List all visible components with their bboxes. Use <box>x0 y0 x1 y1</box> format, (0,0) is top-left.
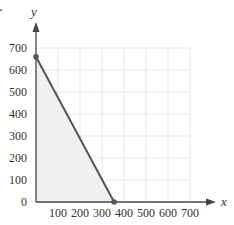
x-tick-label: 600 <box>159 206 177 220</box>
x-tick-label: 100 <box>49 206 67 220</box>
y-axis-arrow-icon <box>33 22 40 32</box>
stray-mark <box>0 9 2 11</box>
y-tick-label: 200 <box>9 151 27 165</box>
y-tick-label: 500 <box>9 85 27 99</box>
y-tick-label: 600 <box>9 63 27 77</box>
x-tick-labels: 100200300400500600700 <box>49 206 199 220</box>
x-axis-arrow-icon <box>206 199 216 206</box>
x-tick-label: 700 <box>181 206 199 220</box>
x-axis-label: x <box>220 194 227 209</box>
y-axis-label: y <box>29 4 37 19</box>
intercept-point <box>33 54 39 60</box>
y-tick-label: 100 <box>9 173 27 187</box>
y-tick-label: 400 <box>9 107 27 121</box>
y-tick-label: 0 <box>21 195 27 209</box>
y-tick-label: 300 <box>9 129 27 143</box>
chart: y x 0100200300400500600700 1002003004005… <box>0 0 234 225</box>
x-tick-label: 500 <box>137 206 155 220</box>
x-tick-label: 400 <box>115 206 133 220</box>
y-tick-labels: 0100200300400500600700 <box>9 41 27 209</box>
x-tick-label: 300 <box>93 206 111 220</box>
x-tick-label: 200 <box>71 206 89 220</box>
y-tick-label: 700 <box>9 41 27 55</box>
intercept-point <box>111 199 117 205</box>
